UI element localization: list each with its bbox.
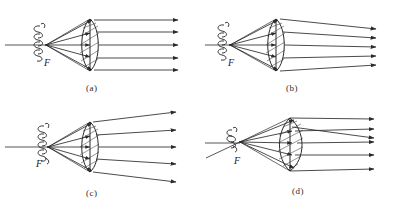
focus-label-d: F (233, 155, 241, 166)
panel-caption-c: (c) (86, 188, 98, 198)
lamp-filament-coil-icon (218, 22, 229, 60)
focus-label-c: F (35, 158, 43, 169)
incident-rays-a (46, 20, 92, 70)
ray-envelope-d (240, 118, 290, 171)
optics-figure: F (0, 0, 399, 209)
panel-caption-d: (d) (292, 186, 304, 196)
lamp-filament-coil-icon (34, 23, 45, 61)
panel-caption-b: (b) (286, 83, 298, 93)
output-rays-d (290, 118, 374, 171)
output-rays-a (94, 20, 178, 70)
output-rays-c (93, 112, 176, 182)
panel-b: F (200, 0, 399, 104)
lamp-filament-coil-icon (227, 127, 237, 152)
incident-rays-d (240, 120, 294, 168)
focus-label-b: F (227, 57, 235, 68)
panel-caption-a: (a) (86, 83, 98, 93)
output-rays-b (280, 19, 376, 71)
panel-a: F (0, 0, 199, 104)
converging-lens-d (278, 118, 303, 171)
panel-c: F (0, 105, 199, 209)
focus-label-a: F (43, 57, 51, 68)
